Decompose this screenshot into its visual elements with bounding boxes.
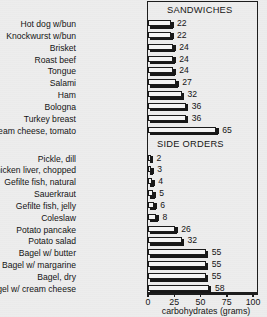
bar-value-label: 4 — [158, 176, 163, 187]
table-row: Brisket24 — [0, 43, 267, 54]
bar-shadow — [150, 184, 154, 187]
bar-category-label: Salami — [50, 78, 76, 89]
bar-category-label: Potato pancake — [16, 225, 76, 236]
table-row: Bagel w/ butter55 — [0, 248, 267, 259]
table-row: Ham32 — [0, 90, 267, 101]
section-header-side-orders: SIDE ORDERS — [157, 139, 224, 149]
table-row: Lox, bagel, cream cheese, tomato65 — [0, 126, 267, 137]
table-row: Potato pancake26 — [0, 225, 267, 236]
table-row: Potato salad32 — [0, 236, 267, 247]
bar-shadow — [150, 73, 175, 76]
bar-value-label: 55 — [212, 259, 222, 270]
bar — [148, 155, 154, 164]
bar-value-label: 8 — [162, 212, 167, 223]
table-row: Knockwurst w/bun22 — [0, 31, 267, 42]
bar-category-label: Sauerkraut — [34, 189, 76, 200]
bar-shadow — [150, 62, 175, 65]
bar-category-label: Chicken liver, chopped — [0, 165, 76, 176]
bar-shadow — [150, 255, 208, 258]
table-row: Gefilte fish, natural4 — [0, 177, 267, 188]
bar-category-label: Bagel w/ butter — [19, 248, 76, 259]
bar — [148, 20, 174, 29]
table-row: Sauerkraut5 — [0, 189, 267, 200]
bar-shadow — [150, 133, 218, 136]
bar-category-label: Coleslaw — [41, 213, 76, 224]
table-row: Turkey breast36 — [0, 114, 267, 125]
bar-shadow — [150, 109, 188, 112]
bar — [148, 273, 209, 282]
bar-value-label: 24 — [179, 54, 189, 65]
bar-value-label: 2 — [157, 153, 162, 164]
bar-category-label: Gefilte fish, jelly — [16, 201, 76, 212]
bar-shadow — [150, 232, 177, 235]
bar-value-label: 5 — [159, 188, 164, 199]
bar-category-label: Ham — [58, 90, 76, 101]
bar — [148, 226, 178, 235]
bar-category-label: Hot dog w/bun — [21, 19, 76, 30]
bar-value-label: 24 — [179, 42, 189, 53]
bar — [148, 261, 209, 270]
bar-value-label: 55 — [212, 247, 222, 258]
bar-category-label: Tongue — [48, 66, 76, 77]
x-axis-title: carbohydrates (grams) — [147, 306, 265, 316]
bar-shadow — [150, 267, 208, 270]
bar-shadow — [150, 220, 158, 223]
table-row: Chicken liver, chopped3 — [0, 165, 267, 176]
table-row: Pickle, dill2 — [0, 154, 267, 165]
bar — [148, 91, 185, 100]
bar-category-label: Bagel w/ cream cheese — [0, 284, 76, 295]
bar-value-label: 22 — [177, 30, 187, 41]
bar-value-label: 24 — [179, 65, 189, 76]
bar-category-label: Turkey breast — [24, 114, 76, 125]
bar-shadow — [150, 279, 208, 282]
bar-value-label: 32 — [188, 235, 198, 246]
bar-category-label: Gefilte fish, natural — [4, 177, 76, 188]
bar-shadow — [150, 161, 153, 164]
bar — [148, 178, 155, 187]
carbohydrates-bar-chart: SANDWICHES SIDE ORDERS Hot dog w/bun22Kn… — [0, 0, 267, 317]
bar — [148, 103, 189, 112]
bar-value-label: 55 — [212, 271, 222, 282]
table-row: Tongue24 — [0, 66, 267, 77]
bar-shadow — [150, 121, 188, 124]
bar-category-label: Potato salad — [28, 236, 76, 247]
table-row: Bologna36 — [0, 102, 267, 113]
bar-category-label: Bagel w/ margarine — [2, 260, 76, 271]
table-row: Gefilte fish, jelly6 — [0, 201, 267, 212]
bar-value-label: 36 — [192, 101, 202, 112]
bar-category-label: Roast beef — [34, 55, 76, 66]
bar-value-label: 22 — [177, 18, 187, 29]
table-row: Salami27 — [0, 78, 267, 89]
bar-category-label: Bologna — [44, 102, 76, 113]
bar-shadow — [150, 85, 178, 88]
bar — [148, 202, 157, 211]
x-axis-line — [147, 293, 258, 295]
table-row: Coleslaw8 — [0, 213, 267, 224]
bar-category-label: Bagel, dry — [37, 272, 76, 283]
bar-category-label: Lox, bagel, cream cheese, tomato — [0, 126, 76, 137]
bar-shadow — [150, 172, 153, 175]
bar-value-label: 6 — [160, 200, 165, 211]
bar — [148, 237, 185, 246]
bar — [148, 127, 219, 136]
bar — [148, 56, 176, 65]
bar — [148, 115, 189, 124]
bar-value-label: 36 — [192, 113, 202, 124]
table-row: Roast beef24 — [0, 55, 267, 66]
bar — [148, 79, 179, 88]
bar-shadow — [150, 196, 155, 199]
bar-shadow — [150, 97, 184, 100]
bar — [148, 190, 156, 199]
bar — [148, 32, 174, 41]
bar-value-label: 27 — [182, 77, 192, 88]
bar-category-label: Pickle, dill — [38, 154, 76, 165]
bar-category-label: Brisket — [50, 43, 76, 54]
bar-value-label: 3 — [157, 164, 162, 175]
table-row: Hot dog w/bun22 — [0, 19, 267, 30]
table-row: Bagel w/ margarine55 — [0, 260, 267, 271]
bar — [148, 214, 159, 223]
bar — [148, 249, 209, 258]
bar-shadow — [150, 38, 173, 41]
section-header-sandwiches: SANDWICHES — [167, 5, 233, 15]
bar-shadow — [150, 208, 156, 211]
